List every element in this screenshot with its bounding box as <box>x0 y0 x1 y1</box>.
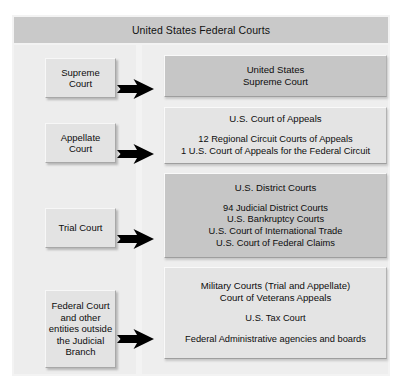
court-level-box-appellate: Appellate Court <box>45 123 116 163</box>
court-detail-body: U.S. Tax Court <box>245 313 305 325</box>
court-detail-column: United States Supreme Court U.S. Court o… <box>142 45 388 374</box>
court-detail-box-other-entities: Military Courts (Trial and Appellate) Co… <box>164 267 387 359</box>
court-level-label: Supreme Court <box>61 67 100 90</box>
court-detail-heading: Military Courts (Trial and Appellate) Co… <box>201 280 350 304</box>
court-detail-body: 12 Regional Circuit Courts of Appeals 1 … <box>181 134 370 157</box>
court-detail-box-appellate: U.S. Court of Appeals 12 Regional Circui… <box>164 107 387 164</box>
diagram-title: United States Federal Courts <box>132 24 270 36</box>
court-level-box-trial: Trial Court <box>45 208 116 248</box>
court-level-column: Supreme Court Appellate Court Trial Cour… <box>14 45 136 374</box>
court-level-label: Federal Court and other entities outside… <box>46 300 115 358</box>
court-level-label: Trial Court <box>59 222 103 234</box>
court-level-label: Appellate Court <box>61 132 101 155</box>
court-level-box-other-entities: Federal Court and other entities outside… <box>45 290 116 368</box>
court-detail-heading: U.S. Court of Appeals <box>229 113 321 125</box>
federal-courts-diagram: United States Federal Courts Supreme Cou… <box>12 15 390 376</box>
court-detail-heading: U.S. District Courts <box>235 182 317 194</box>
diagram-title-bar: United States Federal Courts <box>14 17 388 43</box>
court-detail-heading: United States Supreme Court <box>243 64 308 88</box>
court-detail-box-district: U.S. District Courts 94 Judicial Distric… <box>164 173 387 258</box>
court-level-box-supreme: Supreme Court <box>45 58 116 98</box>
court-detail-body: 94 Judicial District Courts U.S. Bankrup… <box>209 203 343 249</box>
court-detail-body-secondary: Federal Administrative agencies and boar… <box>185 334 366 346</box>
court-detail-box-supreme: United States Supreme Court <box>164 55 387 97</box>
